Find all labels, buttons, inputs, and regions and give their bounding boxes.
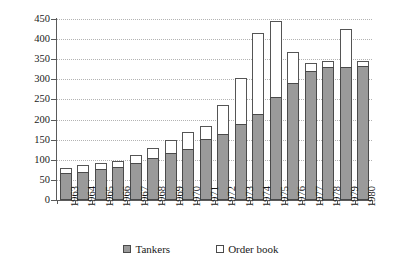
bar-segment-order-book[interactable] <box>217 105 229 134</box>
bar-segment-order-book[interactable] <box>77 165 89 172</box>
bar-segment-order-book[interactable] <box>305 63 317 71</box>
x-axis-tick-label: 1963 <box>70 186 81 207</box>
bar-segment-order-book[interactable] <box>340 29 352 67</box>
plot-area <box>57 19 372 200</box>
y-axis-tick-label: 350 <box>22 54 50 65</box>
x-axis-tick-label: 1974 <box>262 186 273 207</box>
bar-group[interactable] <box>287 52 299 200</box>
legend-swatch-tankers-icon <box>123 245 131 253</box>
y-axis-tick-label: 400 <box>22 34 50 45</box>
x-axis-tick-label: 1973 <box>245 186 256 207</box>
x-axis-tick-label: 1977 <box>315 186 326 207</box>
x-axis-tick-label: 1968 <box>157 186 168 207</box>
y-axis-tick <box>51 79 56 80</box>
x-axis-tick-label: 1980 <box>367 186 378 207</box>
y-axis-tick <box>51 39 56 40</box>
legend-swatch-order-book-icon <box>216 245 224 253</box>
bar-group[interactable] <box>340 29 352 200</box>
bar-group[interactable] <box>270 21 282 200</box>
bar-segment-order-book[interactable] <box>200 126 212 139</box>
bar-group[interactable] <box>357 61 369 200</box>
x-axis-tick-label: 1976 <box>297 186 308 207</box>
bar-segment-order-book[interactable] <box>182 132 194 149</box>
y-axis-tick-label: 100 <box>22 155 50 166</box>
y-axis-tick-label: 0 <box>22 195 50 206</box>
bar-group[interactable] <box>235 78 247 200</box>
y-axis-tick-label: 250 <box>22 94 50 105</box>
bar-segment-tankers[interactable] <box>322 67 334 200</box>
y-axis-tick <box>51 99 56 100</box>
y-axis-tick <box>51 140 56 141</box>
bar-segment-order-book[interactable] <box>147 148 159 158</box>
chart-legend: TankersOrder book <box>0 243 402 255</box>
y-axis-tick-label: 150 <box>22 135 50 146</box>
y-axis-tick-label: 50 <box>22 175 50 186</box>
bar-segment-order-book[interactable] <box>235 78 247 123</box>
x-axis-tick-label: 1966 <box>122 186 133 207</box>
y-axis-tick-label: 450 <box>22 14 50 25</box>
y-axis-tick <box>51 59 56 60</box>
y-axis-tick <box>51 19 56 20</box>
legend-label: Tankers <box>135 243 170 255</box>
chart-figure: 050100150200250300350400450 196319641965… <box>0 0 402 266</box>
x-axis-tick-label: 1971 <box>210 186 221 207</box>
bar-group[interactable] <box>252 33 264 200</box>
x-axis-tick-label: 1972 <box>227 186 238 207</box>
y-axis-tick <box>51 120 56 121</box>
x-axis-tick <box>57 200 58 204</box>
x-axis-tick-label: 1970 <box>192 186 203 207</box>
bar-segment-tankers[interactable] <box>270 97 282 200</box>
legend-entry[interactable]: Tankers <box>123 243 170 255</box>
bar-segment-tankers[interactable] <box>340 67 352 200</box>
y-axis-tick-label: 300 <box>22 74 50 85</box>
y-axis-tick <box>51 200 56 201</box>
bar-segment-order-book[interactable] <box>165 140 177 153</box>
bar-segment-tankers[interactable] <box>287 83 299 200</box>
y-axis-tick <box>51 180 56 181</box>
bar-segment-order-book[interactable] <box>130 155 142 163</box>
bar-group[interactable] <box>322 61 334 200</box>
legend-entry[interactable]: Order book <box>216 243 278 255</box>
x-axis-tick-label: 1964 <box>87 186 98 207</box>
y-axis-tick-label: 200 <box>22 115 50 126</box>
x-axis-tick-label: 1969 <box>175 186 186 207</box>
y-axis-tick <box>51 160 56 161</box>
x-axis-tick-label: 1965 <box>105 186 116 207</box>
bar-segment-order-book[interactable] <box>287 52 299 83</box>
bar-segment-order-book[interactable] <box>252 33 264 113</box>
x-axis-tick-label: 1979 <box>350 186 361 207</box>
bar-group[interactable] <box>305 63 317 200</box>
bar-segment-tankers[interactable] <box>357 66 369 200</box>
x-axis-tick-label: 1978 <box>332 186 343 207</box>
x-axis-tick-label: 1975 <box>280 186 291 207</box>
bar-segment-tankers[interactable] <box>305 71 317 200</box>
bar-segment-order-book[interactable] <box>270 21 282 97</box>
legend-label: Order book <box>228 243 278 255</box>
x-axis-tick-label: 1967 <box>140 186 151 207</box>
